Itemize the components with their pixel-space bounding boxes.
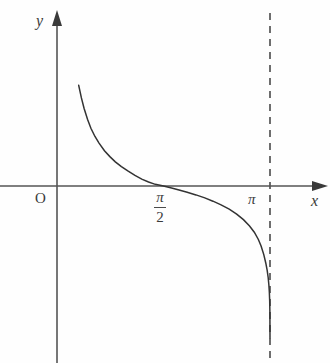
- cotangent-graph-figure: y x O π π 2: [0, 0, 330, 363]
- fraction-bar: [154, 207, 166, 208]
- x-axis-label: x: [311, 193, 318, 209]
- y-axis-label: y: [36, 13, 43, 29]
- x-tick-label-pi-over-2: π 2: [149, 190, 171, 226]
- fraction-numerator: π: [154, 190, 166, 207]
- x-tick-label-pi: π: [248, 192, 256, 207]
- fraction-denominator: 2: [154, 209, 166, 226]
- x-axis-arrowhead: [312, 181, 328, 191]
- cotangent-curve: [79, 85, 270, 337]
- plot-canvas: [0, 0, 330, 363]
- y-axis-arrowhead: [52, 10, 62, 26]
- origin-label: O: [35, 191, 46, 206]
- fraction-pi-over-2: π 2: [154, 190, 166, 226]
